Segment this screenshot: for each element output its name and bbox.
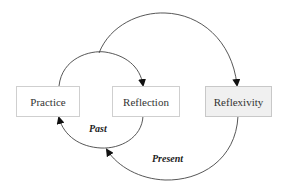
node-reflexivity: Reflexivity — [205, 86, 272, 117]
node-practice-label: Practice — [30, 96, 65, 108]
edge-label-present: Present — [152, 153, 183, 164]
node-reflexivity-label: Reflexivity — [214, 96, 264, 108]
arrow-reflexivity-to-practice-present — [107, 116, 238, 180]
arrow-practice-to-reflection — [59, 52, 143, 86]
arrow-to-reflexivity — [99, 13, 237, 85]
node-reflection-label: Reflection — [123, 96, 169, 108]
node-reflection: Reflection — [112, 86, 180, 117]
node-practice: Practice — [16, 86, 80, 117]
edge-label-past: Past — [89, 123, 107, 134]
